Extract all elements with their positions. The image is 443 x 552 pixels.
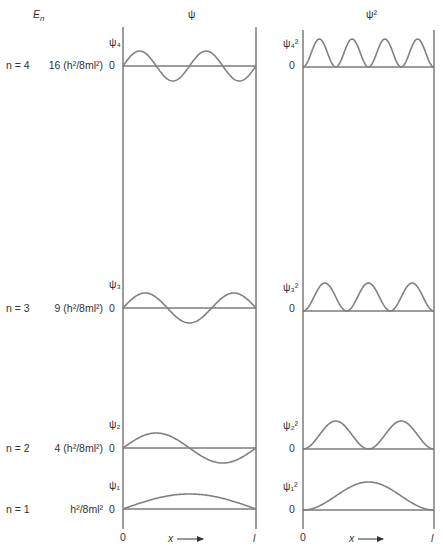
panel-axes — [123, 27, 434, 529]
energy-column-header: En — [33, 8, 45, 23]
psi-function-label: ψ₃ — [109, 278, 121, 290]
psi-sq-probability-curve — [303, 39, 434, 67]
level-n4: n = 416 (h²/8ml²)0ψ₄0ψ₄² — [6, 36, 434, 81]
quantum-number-label: n = 3 — [6, 302, 30, 314]
psi-column-header: ψ — [188, 8, 196, 20]
psi-sq-function-label: ψ₄² — [283, 37, 299, 49]
psi-sq-zero-label: 0 — [289, 442, 295, 454]
energy-levels: n = 416 (h²/8ml²)0ψ₄0ψ₄²n = 39 (h²/8ml²)… — [6, 36, 434, 515]
psi-zero-label: 0 — [109, 442, 115, 454]
psi-sq-function-label: ψ₃² — [283, 281, 299, 293]
energy-value-label: 16 (h²/8ml²) — [49, 59, 103, 71]
particle-in-box-diagram: En ψ ψ² n = 416 (h²/8ml²)0ψ₄0ψ₄²n = 39 (… — [0, 0, 443, 552]
level-n2: n = 24 (h²/8ml²)0ψ₂0ψ₂² — [6, 418, 434, 463]
psi-sq-function-label: ψ₁² — [283, 480, 298, 492]
psi-x-origin-label: 0 — [120, 531, 126, 543]
level-n1: n = 1h²/8ml²0ψ₁0ψ₁² — [6, 479, 434, 515]
psi-function-label: ψ₂ — [109, 418, 121, 430]
quantum-number-label: n = 2 — [6, 442, 30, 454]
psi-x-end-label: l — [253, 532, 256, 544]
psi-sq-zero-label: 0 — [289, 302, 295, 314]
psi-sq-x-end-label: l — [431, 532, 434, 544]
psi-sq-x-variable-label: x — [348, 532, 355, 544]
psi-function-label: ψ₄ — [109, 36, 121, 48]
psi-function-label: ψ₁ — [109, 479, 120, 491]
psi-x-variable-label: x — [167, 532, 174, 544]
level-n3: n = 39 (h²/8ml²)0ψ₃0ψ₃² — [6, 278, 434, 323]
psi-wavefunction-curve — [123, 494, 256, 509]
psi-sq-function-label: ψ₂² — [283, 419, 299, 431]
psi-sq-x-origin-label: 0 — [300, 531, 306, 543]
psi-sq-zero-label: 0 — [289, 59, 295, 71]
quantum-number-label: n = 1 — [6, 503, 30, 515]
quantum-number-label: n = 4 — [6, 59, 30, 71]
psi-zero-label: 0 — [109, 302, 115, 314]
psi-sq-probability-curve — [303, 482, 434, 510]
psi-zero-label: 0 — [109, 503, 115, 515]
energy-value-label: 4 (h²/8ml²) — [55, 442, 103, 454]
psi-sq-probability-curve — [303, 283, 434, 311]
psi-sq-probability-curve — [303, 421, 434, 449]
energy-value-label: 9 (h²/8ml²) — [55, 302, 103, 314]
psi-squared-column-header: ψ² — [366, 8, 377, 20]
psi-sq-zero-label: 0 — [289, 503, 295, 515]
energy-value-label: h²/8ml² — [70, 503, 103, 515]
psi-zero-label: 0 — [109, 59, 115, 71]
